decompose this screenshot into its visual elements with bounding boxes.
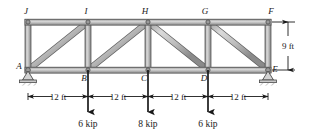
- load-arrows: [88, 70, 208, 112]
- load-label-c: 8 kip: [138, 119, 158, 129]
- dimension-label-height: 9 ft: [282, 41, 295, 51]
- node-label-D: D: [200, 73, 208, 83]
- node-label-B: B: [81, 73, 87, 83]
- diagonal-B-H: [88, 22, 148, 70]
- vertical-E-F: [265, 19, 272, 73]
- diagonal-A-I: [28, 22, 88, 70]
- vertical-D-G: [205, 19, 212, 73]
- node-label-E: E: [271, 64, 278, 74]
- node-label-I: I: [84, 6, 89, 16]
- load-labels: 6 kip 8 kip 6 kip: [78, 119, 218, 129]
- diagonal-H-D: [148, 22, 208, 70]
- vertical-A-J: [25, 19, 32, 73]
- dimension-label-de: 12 ft: [230, 92, 247, 102]
- truss-svg: A B C D E F G H I J 12 ft 12 ft 12 ft 12…: [0, 0, 314, 137]
- load-label-d: 6 kip: [198, 119, 218, 129]
- diagonal-G-E: [208, 22, 268, 70]
- node-label-F: F: [267, 6, 274, 16]
- dimension-label-ab: 12 ft: [50, 92, 67, 102]
- dimension-label-bc: 12 ft: [110, 92, 127, 102]
- node-label-H: H: [141, 6, 149, 16]
- dimension-label-cd: 12 ft: [170, 92, 187, 102]
- vertical-C-H: [145, 19, 152, 73]
- truss-members: [25, 19, 272, 74]
- vertical-B-I: [85, 19, 92, 73]
- node-label-G: G: [202, 6, 209, 16]
- load-label-b: 6 kip: [78, 119, 98, 129]
- node-label-J: J: [24, 6, 29, 16]
- node-label-A: A: [15, 61, 22, 71]
- node-label-C: C: [141, 73, 148, 83]
- truss-diagram: A B C D E F G H I J 12 ft 12 ft 12 ft 12…: [0, 0, 314, 137]
